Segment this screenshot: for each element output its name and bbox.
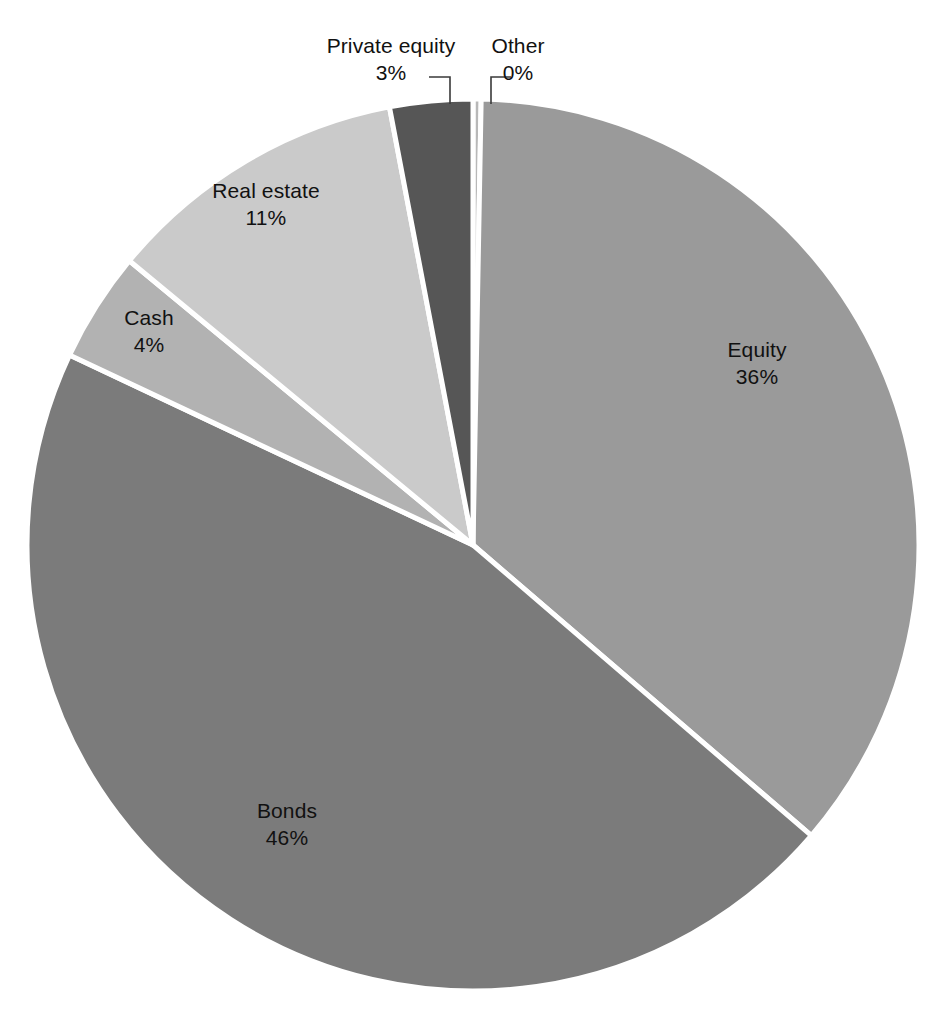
- slice-label-cash-value: 4%: [64, 332, 234, 359]
- slice-label-equity-name: Equity: [662, 337, 852, 364]
- slice-label-real-estate-value: 11%: [156, 205, 376, 232]
- pie-chart: Equity 36% Bonds 46% Real estate 11% Cas…: [0, 0, 950, 1020]
- slice-label-real-estate: Real estate 11%: [156, 178, 376, 232]
- slice-label-equity: Equity 36%: [662, 337, 852, 391]
- slice-label-other-name: Other: [454, 33, 582, 60]
- slice-label-cash-name: Cash: [64, 305, 234, 332]
- slice-label-other-value: 0%: [454, 60, 582, 87]
- slice-label-cash: Cash 4%: [64, 305, 234, 359]
- pie-chart-canvas: [0, 0, 950, 1020]
- slice-label-other: Other 0%: [454, 33, 582, 87]
- slice-label-bonds-value: 46%: [192, 825, 382, 852]
- slice-label-bonds-name: Bonds: [192, 798, 382, 825]
- pie-slices-group: [27, 99, 919, 991]
- slice-label-real-estate-name: Real estate: [156, 178, 376, 205]
- slice-label-bonds: Bonds 46%: [192, 798, 382, 852]
- slice-label-equity-value: 36%: [662, 364, 852, 391]
